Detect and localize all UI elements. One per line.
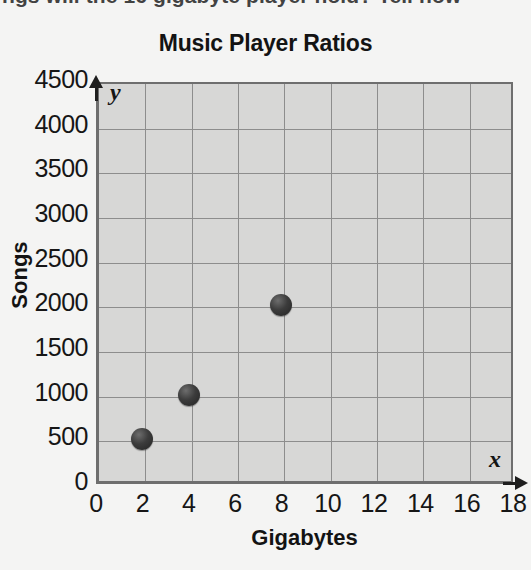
gridline-vertical	[238, 84, 239, 481]
y-tick-label-text: 1000	[34, 378, 88, 407]
y-tick-label-text: 1500	[34, 333, 88, 362]
chart-title: Music Player Ratios	[0, 30, 531, 57]
x-tick-label-text: 18	[500, 489, 527, 518]
x-tick-label-text: 14	[407, 489, 434, 518]
x-tick-label-text: 4	[182, 489, 195, 518]
x-tick-label-text: 6	[228, 489, 241, 518]
gridline-horizontal	[99, 352, 511, 353]
y-tick-label-text: 500	[48, 422, 88, 451]
y-axis-title: Songs	[7, 230, 33, 320]
context-sentence-fragment: ngs will the 16 gigabyte player hold? Te…	[2, 0, 461, 8]
x-tick-label-text: 10	[314, 489, 341, 518]
y-tick-label-text: 2500	[34, 244, 88, 273]
context-text-strip: ngs will the 16 gigabyte player hold? Te…	[0, 0, 531, 17]
y-tick-label-text: 3000	[34, 199, 88, 228]
gridline-horizontal	[99, 173, 511, 174]
gridline-horizontal	[99, 307, 511, 308]
x-axis-variable-label: x	[489, 446, 501, 473]
y-tick-label-text: 4500	[34, 65, 88, 94]
gridline-vertical	[377, 84, 378, 481]
gridline-vertical	[192, 84, 193, 481]
y-tick-label-text: 0	[75, 467, 88, 496]
gridline-vertical	[284, 84, 285, 481]
gridline-horizontal	[99, 129, 511, 130]
y-tick-label-text: 2000	[34, 288, 88, 317]
x-tick-label-text: 8	[275, 489, 288, 518]
y-tick-label-text: 4000	[34, 110, 88, 139]
gridline-vertical	[423, 84, 424, 481]
gridline-vertical	[470, 84, 471, 481]
x-tick-label-text: 12	[361, 489, 388, 518]
y-axis-arrow-icon	[89, 75, 103, 88]
x-tick-label-text: 2	[136, 489, 149, 518]
x-tick-label-text: 16	[453, 489, 480, 518]
data-point	[178, 384, 200, 406]
plot-area	[96, 82, 513, 484]
x-axis-arrow-icon	[515, 476, 528, 490]
scatter-plot-figure: Music Player Ratios y x 0500100015002000…	[0, 17, 531, 570]
gridline-horizontal	[99, 218, 511, 219]
gridline-horizontal	[99, 397, 511, 398]
gridline-vertical	[331, 84, 332, 481]
gridline-horizontal	[99, 263, 511, 264]
x-tick-label-text: 0	[89, 489, 102, 518]
gridline-vertical	[145, 84, 146, 481]
y-tick-label-text: 3500	[34, 154, 88, 183]
y-axis-variable-label: y	[110, 79, 121, 106]
gridline-horizontal	[99, 441, 511, 442]
x-axis-title: Gigabytes	[96, 525, 513, 551]
